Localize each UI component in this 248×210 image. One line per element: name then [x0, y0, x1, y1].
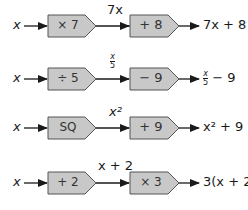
machine-3-output: x² + 9 — [203, 119, 243, 134]
machine-4-intermediate: x + 2 — [98, 158, 133, 173]
machine-2-op1: ÷ 5 — [48, 71, 88, 85]
machine-2-op2: − 9 — [130, 70, 172, 85]
machine-1-op2: + 8 — [130, 17, 172, 32]
machine-4-op2: × 3 — [130, 175, 172, 189]
machine-2-intermediate: x 5 — [110, 53, 115, 70]
machine-3-input: x — [13, 119, 21, 134]
machine-4-output: 3(x + 2) — [203, 174, 248, 189]
machine-1-input: x — [13, 17, 21, 32]
machine-2-output: x5 − 9 — [203, 70, 236, 87]
machine-3-intermediate: x² — [109, 104, 122, 119]
machine-1-output: 7x + 8 — [203, 17, 246, 32]
machine-4-op1: + 2 — [48, 175, 88, 189]
machine-3-op2: + 9 — [130, 119, 172, 134]
machine-2-input: x — [13, 70, 21, 85]
machine-3-op1: SQ — [48, 120, 88, 134]
machine-1-op1: × 7 — [48, 18, 88, 32]
machine-4-input: x — [13, 174, 21, 189]
machine-1-intermediate: 7x — [107, 2, 123, 17]
